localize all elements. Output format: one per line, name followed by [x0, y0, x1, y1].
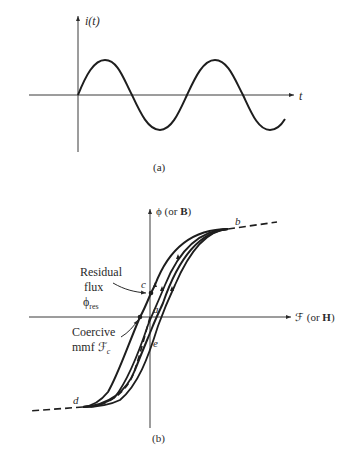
residual-flux-point	[149, 291, 154, 296]
figure-a: i(t) t (a)	[29, 14, 303, 174]
point-label-e: e	[153, 337, 158, 349]
coercive-mmf-label-line2: mmf ℱc	[72, 340, 111, 356]
hysteresis-ascending-branch	[83, 229, 228, 407]
point-label-a: a	[153, 303, 159, 315]
b-caption: (b)	[152, 432, 165, 445]
b-mmf-axis-label: ℱ (or H)	[295, 311, 335, 324]
coercive-mmf-label-line1: Coercive	[72, 325, 115, 339]
figure-canvas: i(t) t (a) ϕ (or B)	[0, 0, 357, 461]
saturation-dashed-lower	[29, 407, 83, 411]
residual-flux-symbol: ϕres	[83, 295, 99, 311]
residual-flux-label-line1: Residual	[80, 265, 123, 279]
residual-flux-label-line2: flux	[84, 280, 103, 294]
b-flux-axis-label: ϕ (or B)	[156, 205, 191, 218]
a-caption: (a)	[153, 161, 166, 174]
point-label-b: b	[235, 215, 241, 227]
coercive-mmf-point	[138, 315, 143, 320]
a-y-axis-label: i(t)	[85, 14, 100, 28]
a-t-axis-label: t	[299, 89, 303, 103]
figure-b: ϕ (or B) ℱ (or H) a b c d e Residual flu…	[29, 205, 335, 445]
point-label-d: d	[73, 394, 79, 406]
point-label-c: c	[141, 278, 146, 290]
